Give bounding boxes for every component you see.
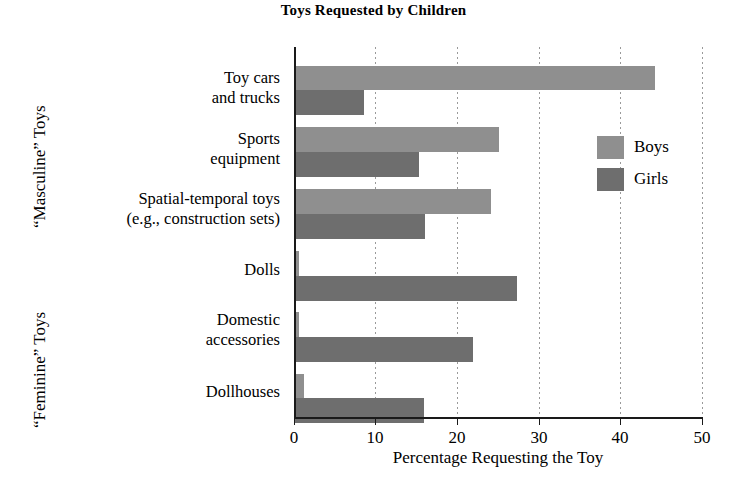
- gridline-40: [620, 47, 621, 417]
- legend-label-boys: Boys: [634, 137, 669, 157]
- category-label-line: and trucks: [48, 88, 280, 108]
- x-tick-50: [702, 417, 703, 425]
- y-axis-line: [294, 47, 296, 417]
- category-label-toy-cars: Toy cars and trucks: [48, 68, 280, 108]
- category-label-line: accessories: [48, 330, 280, 350]
- gridline-30: [539, 47, 540, 417]
- bar-boys-spatial-temporal-toys: [295, 189, 491, 214]
- category-label-line: (e.g., construction sets): [48, 209, 280, 229]
- group-label-feminine: “Feminine” Toys: [30, 312, 50, 428]
- x-tick-label-50: 50: [672, 428, 732, 448]
- bar-boys-dollhouses: [295, 374, 304, 398]
- legend-label-girls: Girls: [634, 169, 668, 189]
- category-label-dolls: Dolls: [48, 260, 280, 280]
- bar-girls-spatial-temporal-toys: [295, 214, 425, 239]
- category-label-dollhouses: Dollhouses: [48, 382, 280, 402]
- legend-swatch-boys-icon: [597, 136, 624, 159]
- category-label-sports-equipment: Sports equipment: [48, 129, 280, 169]
- bar-boys-sports-equipment: [295, 127, 499, 152]
- legend-item-boys: Boys: [597, 131, 669, 163]
- bar-girls-domestic-accessories: [295, 337, 473, 362]
- category-label-line: Spatial-temporal toys: [48, 189, 280, 209]
- bar-girls-dolls: [295, 276, 517, 301]
- category-axis-labels: Toy cars and trucks Sports equipment Spa…: [50, 47, 288, 417]
- bar-girls-sports-equipment: [295, 152, 419, 177]
- plot-area: 0 10 20 30 40 50: [294, 47, 702, 417]
- legend-swatch-girls-icon: [597, 168, 624, 191]
- category-label-line: Toy cars: [48, 68, 280, 88]
- group-label-masculine: “Masculine” Toys: [30, 105, 50, 228]
- x-tick-label-30: 30: [509, 428, 569, 448]
- x-axis-title: Percentage Requesting the Toy: [294, 448, 702, 468]
- category-label-line: Domestic: [48, 310, 280, 330]
- category-label-domestic-accessories: Domestic accessories: [48, 310, 280, 350]
- chart-title: Toys Requested by Children: [0, 2, 747, 19]
- bar-boys-toy-cars: [295, 66, 655, 90]
- x-tick-label-10: 10: [345, 428, 405, 448]
- legend-item-girls: Girls: [597, 163, 669, 195]
- category-label-line: Dolls: [48, 260, 280, 280]
- x-axis-line: [294, 417, 703, 419]
- x-tick-0: [294, 417, 295, 425]
- x-tick-40: [620, 417, 621, 425]
- bar-girls-toy-cars: [295, 90, 364, 115]
- category-label-line: Dollhouses: [48, 382, 280, 402]
- x-tick-label-20: 20: [427, 428, 487, 448]
- category-label-line: Sports: [48, 129, 280, 149]
- chart-legend: Boys Girls: [597, 131, 669, 195]
- category-label-spatial-temporal-toys: Spatial-temporal toys (e.g., constructio…: [48, 189, 280, 229]
- category-label-line: equipment: [48, 149, 280, 169]
- x-tick-20: [457, 417, 458, 425]
- gridline-50: [702, 47, 703, 417]
- bar-girls-dollhouses: [295, 398, 424, 423]
- x-tick-label-0: 0: [264, 428, 324, 448]
- x-tick-30: [539, 417, 540, 425]
- x-tick-label-40: 40: [590, 428, 650, 448]
- x-tick-10: [375, 417, 376, 425]
